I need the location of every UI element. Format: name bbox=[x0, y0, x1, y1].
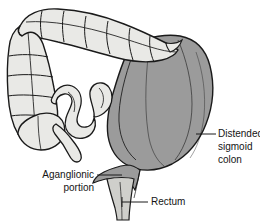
label-distended-line1: Distended bbox=[218, 128, 260, 139]
label-aganglionic-line1: Aganglionic bbox=[42, 169, 94, 180]
label-aganglionic-line2: portion bbox=[63, 182, 94, 193]
colon-diagram-svg: Distended sigmoid colon Aganglionic port… bbox=[0, 0, 260, 223]
label-distended-line3: colon bbox=[218, 154, 242, 165]
anatomical-figure: Distended sigmoid colon Aganglionic port… bbox=[0, 0, 260, 223]
rectum-shape bbox=[107, 178, 134, 221]
label-rectum-line1: Rectum bbox=[151, 196, 185, 207]
label-distended-line2: sigmoid bbox=[218, 141, 252, 152]
